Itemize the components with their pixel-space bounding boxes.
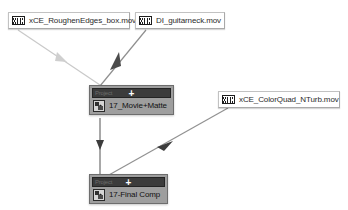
footage-node-colorquad[interactable]: xCE_ColorQuad_NTurb.mov	[218, 91, 340, 108]
comp-label: 17-Final Comp	[105, 190, 160, 200]
comp-body: 17_Movie+Matte	[90, 98, 173, 114]
film-strip-icon	[139, 16, 152, 25]
composition-thumbnail-icon	[93, 189, 105, 201]
film-strip-icon	[222, 95, 235, 104]
composition-thumbnail-icon	[93, 100, 105, 112]
connector-guitarneck-to-movie	[100, 30, 146, 86]
connector-roughen-to-movie	[18, 30, 100, 85]
comp-body: 17-Final Comp	[90, 187, 167, 203]
connector-colorquad-to-final	[100, 108, 228, 180]
film-strip-icon	[12, 16, 25, 25]
footage-label: xCE_ColorQuad_NTurb.mov	[235, 95, 339, 105]
footage-label: DI_guitarneck.mov	[152, 16, 221, 26]
expand-plus-icon[interactable]: +	[93, 177, 164, 187]
connector-movie-to-final	[96, 118, 104, 177]
expand-plus-icon[interactable]: +	[93, 88, 170, 98]
comp-titlebar[interactable]: Project +	[92, 177, 165, 187]
flowchart-canvas[interactable]: xCE_RoughenEdges_box.mov DI_guitarneck.m…	[0, 0, 348, 210]
comp-node-final-comp[interactable]: Project + 17-Final Comp	[89, 174, 168, 204]
footage-node-roughen-edges[interactable]: xCE_RoughenEdges_box.mov	[8, 12, 130, 29]
comp-label: 17_Movie+Matte	[105, 101, 167, 111]
footage-label: xCE_RoughenEdges_box.mov	[25, 16, 136, 26]
comp-node-movie-matte[interactable]: Project + 17_Movie+Matte	[89, 85, 174, 115]
comp-titlebar[interactable]: Project +	[92, 88, 171, 98]
footage-node-guitarneck[interactable]: DI_guitarneck.mov	[135, 12, 225, 29]
